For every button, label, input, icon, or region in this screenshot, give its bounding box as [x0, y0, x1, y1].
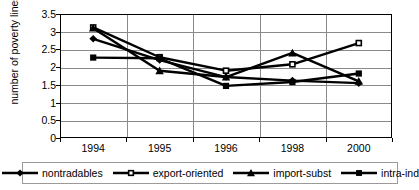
- data-point-marker: [289, 61, 296, 68]
- y-tick-mark: [56, 103, 60, 104]
- legend-key-square-filled-icon: [340, 167, 378, 179]
- data-point-marker: [157, 55, 163, 61]
- data-point-marker: [356, 40, 363, 47]
- y-tick-mark: [56, 67, 60, 68]
- x-axis-tick-labels: 19941995199619982000: [60, 142, 392, 158]
- y-tick-label: 0: [26, 133, 56, 143]
- y-tick-mark: [56, 14, 60, 15]
- data-point-marker: [356, 70, 362, 76]
- legend-label: import-subst: [272, 167, 331, 179]
- legend-key-square-open-icon: [112, 167, 150, 179]
- y-tick-label: 1: [26, 98, 56, 108]
- y-tick-label: 2.5: [26, 44, 56, 54]
- x-tick-label: 1996: [196, 142, 256, 154]
- x-tick-label: 1998: [262, 142, 322, 154]
- legend-item-nontradables: nontradables: [1, 167, 103, 179]
- y-tick-label: 3.5: [26, 9, 56, 19]
- y-tick-mark: [56, 85, 60, 86]
- data-point-marker: [223, 83, 229, 89]
- data-point-marker: [288, 49, 296, 57]
- x-tick-mark: [392, 138, 393, 142]
- legend-label: export-oriented: [152, 167, 224, 179]
- legend-key-diamond-icon: [1, 167, 39, 179]
- data-point-marker: [90, 54, 96, 60]
- y-tick-label: 1.5: [26, 80, 56, 90]
- poverty-lines-line-chart: number of poverty lines 00.511.522.533.5…: [0, 0, 419, 190]
- legend-label: intra-ind: [380, 167, 419, 179]
- x-tick-label: 2000: [329, 142, 389, 154]
- y-tick-mark: [56, 32, 60, 33]
- legend-item-intra-ind: intra-ind: [340, 167, 419, 179]
- x-tick-label: 1995: [130, 142, 190, 154]
- y-tick-label: 3: [26, 27, 56, 37]
- legend-item-import-subst: import-subst: [232, 167, 331, 179]
- data-point-marker: [289, 79, 295, 85]
- data-point-marker: [89, 35, 97, 43]
- y-tick-mark: [56, 120, 60, 121]
- y-tick-label: 0.5: [26, 115, 56, 125]
- y-axis-title: number of poverty lines: [8, 0, 20, 110]
- y-tick-label: 2: [26, 62, 56, 72]
- chart-legend: nontradablesexport-orientedimport-substi…: [22, 162, 398, 184]
- legend-item-export-oriented: export-oriented: [112, 167, 224, 179]
- legend-label: nontradables: [41, 167, 103, 179]
- y-axis-tick-labels: 00.511.522.533.5: [22, 14, 56, 138]
- series-layer: [60, 14, 392, 138]
- legend-key-triangle-icon: [232, 167, 270, 179]
- x-tick-label: 1994: [63, 142, 123, 154]
- y-tick-mark: [56, 49, 60, 50]
- y-tick-mark: [56, 138, 60, 139]
- y-axis-title-wrapper: number of poverty lines: [0, 14, 20, 138]
